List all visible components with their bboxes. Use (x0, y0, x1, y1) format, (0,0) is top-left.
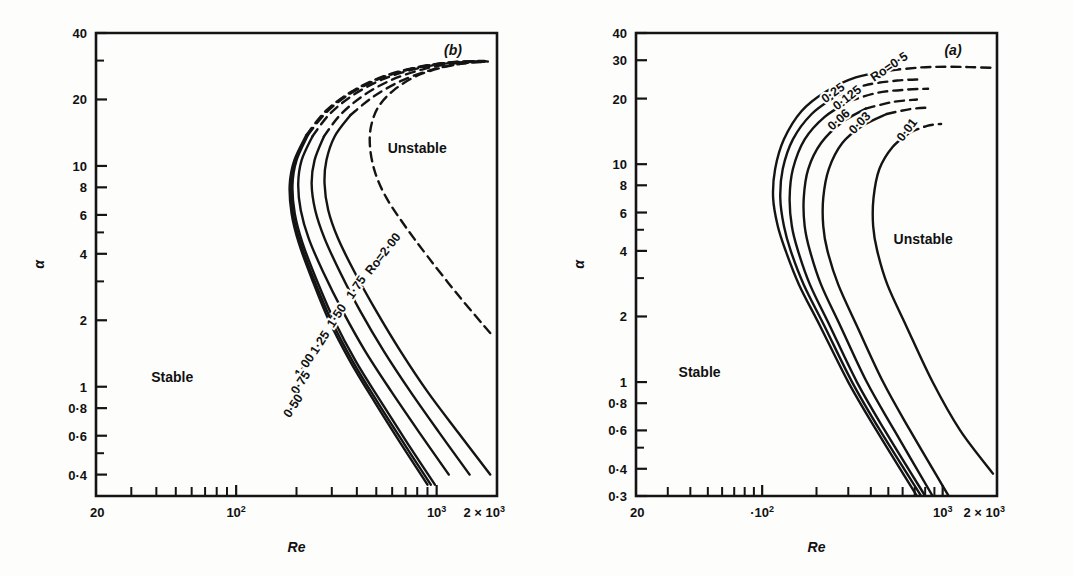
y-tick-label: 20 (73, 92, 87, 107)
y-tick-label: 10 (73, 159, 87, 174)
curve-label-group: Ro=0·5Ro=0·50·250·250·1250·1250·060·060·… (819, 49, 920, 144)
y-axis-title: α (31, 259, 47, 269)
x-tick-label: 20 (90, 505, 104, 520)
region-label: Stable (151, 369, 193, 385)
panel-a-plot: 40302010864210·80·60·40·320·1021032 × 10… (536, 0, 1073, 576)
x-tick-label: ·102 (750, 504, 774, 520)
plot-frame (636, 33, 997, 496)
y-tick-label: 20 (613, 92, 627, 107)
curve-label: 1·75 (343, 273, 369, 302)
y-axis-title: α (571, 259, 587, 269)
x-axis-ticks: 20·1021032 × 103 (630, 485, 1005, 520)
x-axis-ticks: 201021032 × 103 (90, 485, 505, 520)
y-tick-label: 4 (620, 244, 628, 259)
curve-label: 0·50 (280, 392, 305, 421)
y-tick-label: 40 (613, 26, 627, 41)
y-tick-label: 0·6 (608, 423, 627, 438)
y-tick-label: 4 (80, 247, 88, 262)
y-tick-label: 2 (80, 313, 87, 328)
stability-curve-extrapolated (351, 62, 488, 116)
y-tick-label: 0·8 (608, 396, 627, 411)
panel-b-container: 402010864210·80·60·4201021032 × 103Ro=2·… (0, 0, 536, 576)
x-tick-label: 2 × 103 (463, 504, 505, 520)
figure-root: 402010864210·80·60·4201021032 × 103Ro=2·… (0, 0, 1073, 576)
y-tick-label: 2 (620, 309, 627, 324)
curve-group (773, 67, 993, 496)
x-axis-title: Re (808, 539, 826, 555)
x-tick-label: 2 × 103 (963, 504, 1005, 520)
region-label: Unstable (894, 231, 953, 247)
y-tick-label: 8 (620, 178, 627, 193)
y-axis-ticks: 402010864210·80·60·4 (68, 26, 107, 483)
x-tick-label: 102 (226, 504, 245, 520)
plot-frame (96, 33, 497, 496)
x-tick-label: 103 (933, 504, 952, 520)
stability-curve (780, 96, 921, 496)
stability-curve-extrapolated (891, 67, 990, 70)
panel-a-container: 40302010864210·80·60·40·320·1021032 × 10… (536, 0, 1073, 576)
y-tick-label: 0·4 (68, 468, 88, 483)
y-tick-label: 0·3 (608, 489, 627, 504)
region-label: Unstable (388, 140, 447, 156)
y-tick-label: 6 (620, 206, 627, 221)
stability-curve-extrapolated (866, 100, 917, 109)
y-tick-label: 1 (620, 375, 627, 390)
y-tick-label: 8 (80, 180, 87, 195)
y-tick-label: 40 (73, 26, 87, 41)
stability-curve (292, 135, 434, 485)
y-tick-label: 6 (80, 208, 87, 223)
x-tick-label: 20 (630, 505, 644, 520)
region-label-group: StableUnstable (679, 231, 953, 380)
region-label: Stable (679, 364, 721, 380)
panel-b-plot: 402010864210·80·60·4201021032 × 103Ro=2·… (0, 0, 536, 576)
panel-tag: (b) (444, 42, 462, 58)
x-axis-title: Re (288, 539, 306, 555)
y-tick-label: 1 (80, 380, 87, 395)
y-tick-label: 0·6 (68, 429, 87, 444)
curve-group (290, 61, 491, 485)
curve-label: Ro=2·00 (362, 230, 403, 277)
curve-label: Ro=0·5 (868, 49, 911, 84)
panel-tag: (a) (944, 42, 961, 58)
x-tick-label: 103 (427, 504, 446, 520)
stability-curve-extrapolated (887, 108, 929, 114)
stability-curve (370, 61, 491, 333)
y-tick-label: 0·8 (68, 401, 87, 416)
curve-label: 0·03 (846, 109, 873, 137)
curve-label: 1·25 (307, 328, 332, 357)
y-tick-label: 0·4 (608, 462, 628, 477)
y-axis-ticks: 40302010864210·80·60·40·3 (608, 26, 647, 504)
y-tick-label: 30 (613, 53, 627, 68)
y-tick-label: 10 (613, 157, 627, 172)
